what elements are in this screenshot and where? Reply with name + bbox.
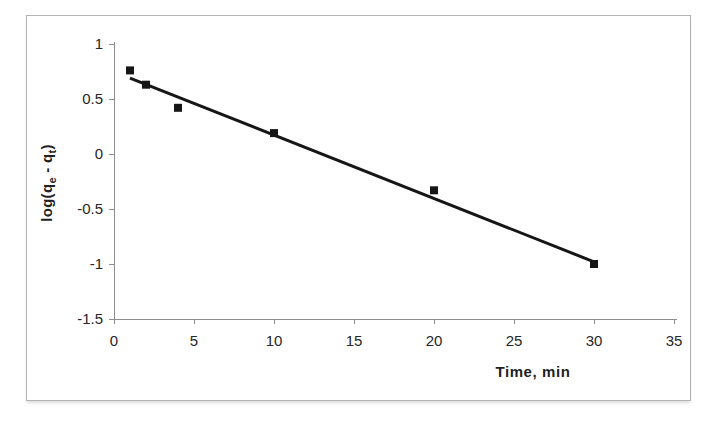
y-axis-title-text: ) — [38, 144, 55, 149]
data-point — [430, 186, 438, 194]
y-axis-title-text: log(q — [38, 184, 55, 222]
x-tick-label: 0 — [110, 332, 118, 349]
data-point — [270, 129, 278, 137]
x-tick-label: 30 — [586, 332, 603, 349]
data-point — [174, 104, 182, 112]
trendline — [130, 78, 594, 262]
y-axis-title-text: - q — [38, 153, 55, 177]
y-tick-label: 1 — [95, 35, 103, 52]
y-axis-title-sub-e: e — [46, 177, 58, 183]
x-tick-label: 25 — [506, 332, 523, 349]
y-axis-title-sub-t: t — [46, 150, 58, 154]
chart-frame: 0510152025303510.50-0.5-1-1.5 log(qe - q… — [26, 15, 691, 401]
y-tick-label: -0.5 — [77, 200, 103, 217]
y-axis-title: log(qe - qt) — [38, 144, 55, 222]
x-tick-label: 5 — [190, 332, 198, 349]
y-tick-label: 0.5 — [82, 90, 103, 107]
data-point — [126, 66, 134, 74]
y-tick-label: -1.5 — [77, 310, 103, 327]
data-point — [142, 81, 150, 89]
x-tick-label: 35 — [666, 332, 683, 349]
x-tick-label: 10 — [266, 332, 283, 349]
x-tick-label: 20 — [426, 332, 443, 349]
x-axis-title: Time, min — [495, 363, 570, 380]
data-point — [590, 260, 598, 268]
x-tick-label: 15 — [346, 332, 363, 349]
y-tick-label: 0 — [95, 145, 103, 162]
y-tick-label: -1 — [90, 255, 103, 272]
plot-area: 0510152025303510.50-0.5-1-1.5 — [27, 16, 690, 400]
